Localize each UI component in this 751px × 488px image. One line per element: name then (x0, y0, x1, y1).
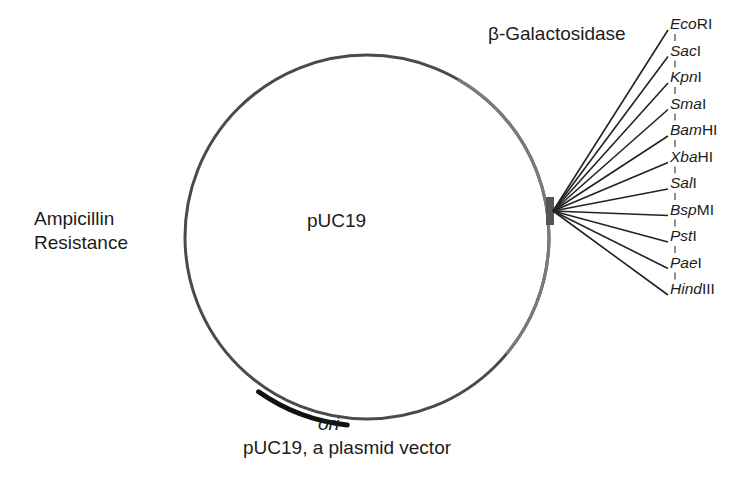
site-name-roman: I (697, 42, 701, 59)
lacz-label: β-Galactosidase (488, 23, 626, 45)
site-name-italic: Bsp (670, 201, 697, 218)
site-name-italic: Sac (670, 42, 697, 59)
site-name-italic: Eco (670, 15, 697, 32)
site-name-roman: I (698, 68, 702, 85)
plasmid-backbone (185, 55, 549, 419)
site-name-roman: RI (697, 15, 713, 32)
site-name-italic: Sma (670, 95, 702, 112)
leader-line (553, 30, 668, 211)
amp-label-line1: Ampicillin (34, 208, 114, 230)
restriction-site-label: BamHI (670, 122, 717, 138)
restriction-site-label: SalI (670, 175, 697, 191)
site-name-roman: HI (698, 148, 714, 165)
site-name-roman: III (702, 280, 715, 297)
leader-line (553, 211, 668, 269)
site-name-roman: I (698, 254, 702, 271)
leader-line (553, 211, 668, 295)
restriction-site-label: HindIII (670, 281, 715, 297)
site-name-italic: Kpn (670, 68, 698, 85)
leader-lines (553, 30, 668, 295)
restriction-site-label: BspMI (670, 202, 714, 218)
leader-line (553, 110, 668, 212)
restriction-site-label: KpnI (670, 69, 702, 85)
diagram-title: pUC19, a plasmid vector (243, 437, 451, 459)
lacz-segment (458, 79, 549, 354)
leader-line (553, 211, 668, 242)
mcs-block (546, 197, 554, 225)
ori-label: ori (318, 413, 339, 435)
restriction-site-label: EcoRI (670, 16, 712, 32)
restriction-site-label: PaeI (670, 255, 702, 271)
site-name-italic: Pae (670, 254, 698, 271)
site-name-roman: I (692, 227, 696, 244)
restriction-site-label: SmaI (670, 96, 706, 112)
site-name-roman: HI (702, 121, 718, 138)
leader-line (553, 57, 668, 212)
site-name-roman: I (692, 174, 696, 191)
plasmid-name: pUC19 (307, 210, 366, 232)
site-name-italic: Hind (670, 280, 702, 297)
amp-label-line2: Resistance (34, 232, 128, 254)
site-name-italic: Pst (670, 227, 692, 244)
restriction-site-label: SacI (670, 43, 701, 59)
restriction-site-label: PstI (670, 228, 697, 244)
site-name-italic: Sal (670, 174, 692, 191)
site-name-roman: I (702, 95, 706, 112)
restriction-site-label: XbaHI (670, 149, 713, 165)
site-name-italic: Bam (670, 121, 702, 138)
site-name-italic: Xba (670, 148, 698, 165)
site-name-roman: MI (697, 201, 714, 218)
